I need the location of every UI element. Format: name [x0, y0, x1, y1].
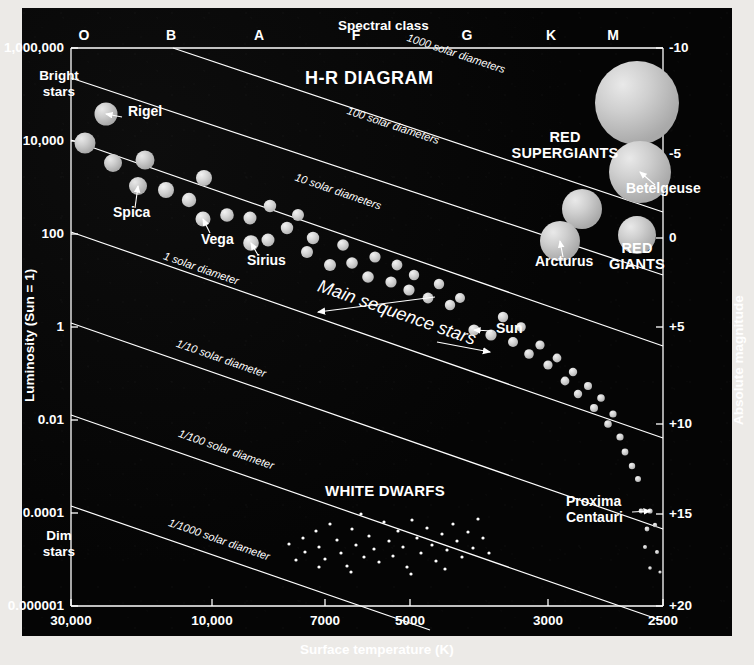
star-marker	[220, 208, 234, 222]
x-tick-label: 7000	[280, 613, 370, 628]
star-marker	[629, 463, 635, 469]
star-marker	[653, 523, 657, 527]
main-sequence-label-group: Main sequence stars	[315, 276, 490, 352]
star-label-vega: Vega	[201, 232, 234, 248]
star-marker	[535, 340, 544, 349]
star-marker	[317, 545, 320, 548]
surface-temperature-axis-title: Surface temperature (K)	[300, 642, 454, 657]
star-marker	[104, 154, 122, 172]
star-marker	[359, 512, 362, 515]
star-marker	[244, 212, 257, 225]
star-marker	[460, 555, 463, 558]
star-label-spica: Spica	[113, 205, 150, 221]
dim-stars-line2: stars	[28, 544, 90, 560]
star-marker	[609, 410, 616, 417]
star-marker	[369, 251, 380, 262]
group-label-red-supergiants: REDSUPERGIANTS	[495, 129, 635, 161]
solar-diameter-line-label: 100 solar diameters	[346, 104, 442, 146]
star-marker	[481, 536, 484, 539]
star-marker	[440, 532, 443, 535]
star-marker	[584, 382, 592, 390]
star-marker	[391, 554, 394, 557]
group-label-line1: RED	[582, 240, 692, 256]
star-marker	[323, 557, 326, 560]
star-marker	[419, 551, 422, 554]
spectral-class-b: B	[151, 28, 191, 44]
spectral-class-g: G	[447, 28, 487, 44]
star-marker	[182, 193, 196, 207]
star-marker	[425, 526, 428, 529]
star-marker	[287, 542, 290, 545]
star-marker	[487, 551, 490, 554]
star-marker	[622, 449, 629, 456]
solar-diameter-line	[71, 506, 430, 630]
star-marker	[658, 570, 661, 573]
star-marker	[314, 529, 317, 532]
star-marker	[301, 246, 313, 258]
star-label-sun: Sun	[496, 321, 522, 337]
star-marker	[590, 404, 598, 412]
y-tick-label: 1,000,000	[0, 40, 64, 55]
star-marker	[292, 209, 304, 221]
star-marker	[385, 276, 396, 287]
star-marker	[409, 270, 419, 280]
star-marker	[471, 546, 474, 549]
star-marker	[466, 530, 469, 533]
star-label-rigel: Rigel	[128, 104, 162, 120]
star-marker	[349, 570, 352, 573]
star-marker	[616, 433, 623, 440]
y-tick-label: 100	[0, 226, 64, 241]
star-marker	[476, 517, 479, 520]
solar-diameter-line-label: 1/10 solar diameter	[175, 337, 269, 380]
star-label-line1: Proxima	[566, 494, 623, 510]
group-label-line1: RED	[495, 129, 635, 145]
star-marker	[354, 543, 357, 546]
dim-stars-line1: Dim	[28, 528, 90, 544]
star-marker	[301, 536, 304, 539]
star-marker	[443, 567, 446, 570]
star-marker	[604, 420, 612, 428]
star-marker	[196, 170, 212, 186]
group-label-white-dwarfs: WHITE DWARFS	[295, 483, 475, 500]
star-marker	[445, 300, 455, 310]
spectral-class-f: F	[336, 28, 376, 44]
star-marker	[643, 545, 647, 549]
star-marker	[262, 234, 275, 247]
star-marker	[569, 368, 577, 376]
diagram-title: H-R DIAGRAM	[305, 68, 434, 88]
star-marker	[434, 559, 437, 562]
star-marker	[403, 284, 414, 295]
bright-stars-line1: Bright	[28, 68, 90, 84]
star-marker	[445, 548, 448, 551]
star-marker	[508, 337, 518, 347]
hr-diagram-figure: 1000 solar diameters100 solar diameters1…	[0, 0, 754, 665]
star-label-line2: Centauri	[566, 510, 623, 526]
star-marker	[382, 520, 385, 523]
magnitude-tick-label: +5	[669, 319, 684, 334]
luminosity-axis-title: Luminosity (Sun = 1)	[22, 269, 37, 402]
star-marker	[264, 200, 276, 212]
star-marker	[377, 560, 380, 563]
star-marker	[372, 547, 375, 550]
star-marker	[645, 527, 650, 532]
main-sequence-label: Main sequence stars	[315, 276, 478, 350]
star-marker	[434, 279, 444, 289]
star-marker	[635, 476, 641, 482]
star-marker	[409, 572, 412, 575]
star-marker	[317, 565, 320, 568]
y-tick-label: 0.01	[0, 412, 64, 427]
star-marker	[328, 522, 331, 525]
star-marker	[387, 539, 390, 542]
spectral-class-m: M	[593, 28, 633, 44]
star-marker	[367, 534, 370, 537]
star-marker	[392, 260, 403, 271]
group-label-line2: GIANTS	[582, 256, 692, 272]
group-label-line1: WHITE DWARFS	[295, 483, 475, 500]
star-marker	[339, 551, 342, 554]
star-marker	[410, 518, 413, 521]
y-tick-label: 10,000	[0, 133, 64, 148]
star-marker	[136, 151, 155, 170]
star-marker	[362, 271, 374, 283]
star-marker	[561, 377, 570, 386]
x-tick-label: 10,000	[167, 613, 257, 628]
